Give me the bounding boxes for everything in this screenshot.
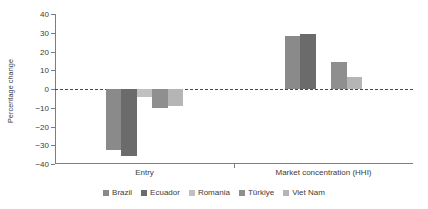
y-tick-mark — [51, 164, 55, 165]
legend-item-türkiye[interactable]: Türkiye — [239, 188, 274, 197]
legend-label: Romania — [198, 188, 230, 197]
legend-item-romania[interactable]: Romania — [189, 188, 230, 197]
y-tick-label: −30 — [35, 141, 49, 150]
bar-türkiye-group-1 — [152, 89, 168, 108]
y-tick-label: −10 — [35, 103, 49, 112]
y-tick-label: −40 — [35, 160, 49, 169]
legend-item-ecuador[interactable]: Ecuador — [141, 188, 180, 197]
bars-layer — [55, 14, 413, 164]
bar-ecuador-group-1 — [121, 89, 137, 156]
bar-ecuador-group-2 — [300, 34, 316, 89]
bar-viet-nam-group-2 — [347, 77, 363, 89]
legend-label: Viet Nam — [292, 188, 325, 197]
legend-swatch-icon — [141, 190, 147, 196]
bar-türkiye-group-2 — [331, 62, 347, 89]
legend-swatch-icon — [103, 190, 109, 196]
chart-legend: BrazilEcuadorRomaniaTürkiyeViet Nam — [0, 188, 428, 197]
legend-item-brazil[interactable]: Brazil — [103, 188, 132, 197]
bar-romania-group-1 — [137, 89, 153, 97]
group-separator-tick — [234, 164, 235, 168]
legend-swatch-icon — [283, 190, 289, 196]
y-tick-label: 20 — [40, 47, 49, 56]
plot-area: 403020100−10−20−30−40 — [55, 14, 413, 164]
bar-brazil-group-1 — [106, 89, 122, 150]
bar-viet-nam-group-1 — [168, 89, 184, 106]
y-tick-label: 30 — [40, 28, 49, 37]
y-tick-label: 10 — [40, 66, 49, 75]
bar-chart: Percentage change 403020100−10−20−30−40 … — [0, 0, 428, 209]
legend-swatch-icon — [239, 190, 245, 196]
x-axis-label-1: Entry — [135, 168, 154, 177]
legend-label: Brazil — [112, 188, 132, 197]
x-axis-label-2: Market concentration (HHI) — [275, 168, 371, 177]
bar-brazil-group-2 — [285, 36, 301, 89]
y-tick-label: 40 — [40, 10, 49, 19]
y-axis-title: Percentage change — [4, 6, 18, 176]
legend-swatch-icon — [189, 190, 195, 196]
legend-label: Ecuador — [150, 188, 180, 197]
legend-label: Türkiye — [248, 188, 274, 197]
y-tick-label: −20 — [35, 122, 49, 131]
y-tick-label: 0 — [45, 85, 49, 94]
legend-item-viet-nam[interactable]: Viet Nam — [283, 188, 325, 197]
